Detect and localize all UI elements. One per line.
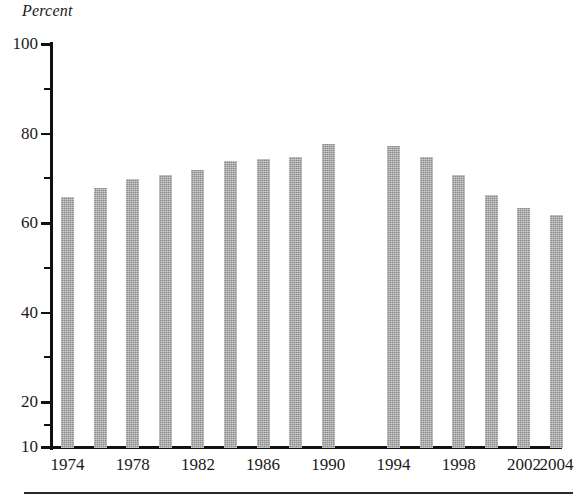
- y-tick-major: [41, 43, 52, 46]
- y-tick-label: 20: [0, 393, 38, 410]
- bars-layer: [52, 44, 562, 448]
- y-tick-minor: [44, 424, 52, 426]
- bar: [224, 161, 237, 448]
- bar: [485, 195, 498, 448]
- y-tick-label: 40: [0, 304, 38, 321]
- y-tick-label: 80: [0, 125, 38, 142]
- y-tick-major: [41, 133, 52, 136]
- y-tick-major: [41, 401, 52, 404]
- x-tick-label: 1990: [311, 456, 345, 473]
- figure-bottom-rule: [24, 492, 573, 494]
- bar-chart-figure: Percent 1008060402010 197419781982198619…: [0, 0, 581, 503]
- y-axis-title: Percent: [22, 2, 73, 20]
- y-tick-label: 100: [0, 35, 38, 52]
- x-tick-label: 2002: [507, 456, 541, 473]
- x-tick-label: 1986: [246, 456, 280, 473]
- bar: [517, 208, 530, 448]
- bar: [191, 170, 204, 448]
- x-tick-label: 1982: [181, 456, 215, 473]
- bar: [387, 146, 400, 448]
- bar: [61, 197, 74, 448]
- y-tick-minor: [44, 88, 52, 90]
- y-tick-label: 60: [0, 214, 38, 231]
- y-tick-minor: [44, 177, 52, 179]
- x-tick-label: 1978: [116, 456, 150, 473]
- bar: [420, 157, 433, 448]
- y-tick-minor: [44, 356, 52, 358]
- x-tick-label: 1994: [377, 456, 411, 473]
- bar: [257, 159, 270, 448]
- y-tick-major: [41, 312, 52, 315]
- x-tick-label: 2004: [540, 456, 574, 473]
- bar: [126, 179, 139, 448]
- bar: [452, 175, 465, 448]
- y-tick-minor: [44, 267, 52, 269]
- y-tick-major: [41, 446, 52, 449]
- bar: [289, 157, 302, 448]
- y-tick-label: 10: [0, 438, 38, 455]
- bar: [94, 188, 107, 448]
- bar: [159, 175, 172, 448]
- y-tick-major: [41, 222, 52, 225]
- x-tick-label: 1998: [442, 456, 476, 473]
- bar: [322, 144, 335, 448]
- bar: [550, 215, 563, 448]
- x-tick-label: 1974: [51, 456, 85, 473]
